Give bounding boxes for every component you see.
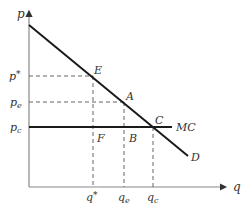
point-F-label: F xyxy=(96,132,105,145)
p-e-label: pe xyxy=(10,96,22,110)
q-c-label: qc xyxy=(147,191,159,205)
mc-label: MC xyxy=(175,121,196,134)
point-E-label: E xyxy=(93,64,102,77)
x-axis-label: q xyxy=(233,180,241,194)
point-B-label: B xyxy=(128,132,137,145)
y-axis-label: p xyxy=(17,7,25,21)
q-e-label: qe xyxy=(118,191,130,205)
q-star-label: q* xyxy=(86,190,98,204)
point-A-label: A xyxy=(125,90,134,103)
demand-label: D xyxy=(190,151,200,164)
point-C-label: C xyxy=(155,114,164,127)
economics-diagram: p q p* pe pc q* qe qc E A C F B MC D xyxy=(0,0,249,208)
p-star-label: p* xyxy=(9,69,21,83)
p-c-label: pc xyxy=(10,121,22,135)
demand-line xyxy=(29,25,188,156)
